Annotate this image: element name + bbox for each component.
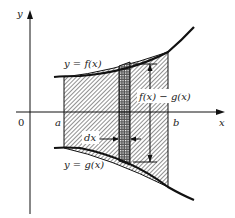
origin-label: 0: [18, 117, 24, 128]
height-label: f(x) − g(x): [138, 91, 191, 102]
area-between-curves-diagram: f(x) − g(x) dx y x 0 a b y = f(x) y = g(…: [0, 0, 235, 218]
x-axis-arrow-icon: [216, 109, 225, 115]
curve-f: [54, 27, 194, 77]
curve-f-label: y = f(x): [63, 58, 102, 69]
y-axis-arrow-icon: [27, 10, 33, 19]
width-label: dx: [84, 132, 96, 143]
x-axis-label: x: [219, 117, 225, 128]
a-label: a: [55, 117, 61, 128]
strip-dx: [119, 62, 130, 165]
b-label: b: [173, 117, 179, 128]
curve-g-label: y = g(x): [63, 159, 104, 170]
y-axis-label: y: [16, 8, 23, 19]
